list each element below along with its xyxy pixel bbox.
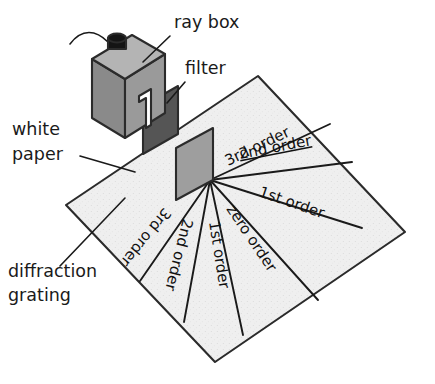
- white-paper-line2-label: paper: [12, 144, 64, 164]
- diffraction-grating-figure: 3rd order2nd order1st orderzero order1st…: [0, 0, 435, 384]
- diffraction-line1-label: diffraction: [8, 261, 97, 281]
- white-paper-line1-label: white: [12, 119, 60, 139]
- ray-box: [70, 33, 165, 139]
- filter-label: filter: [185, 58, 227, 78]
- ray-box-knob-cap: [108, 34, 126, 43]
- ray-box-cable: [70, 33, 108, 45]
- ray-box-label: ray box: [174, 12, 239, 32]
- diffraction-line2-label: grating: [8, 285, 71, 305]
